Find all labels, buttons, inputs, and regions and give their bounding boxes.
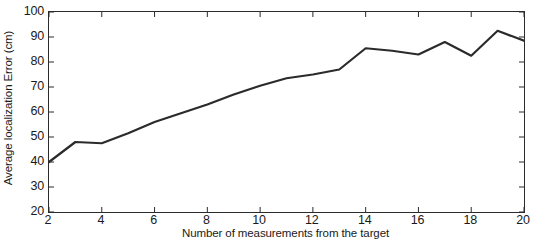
- x-axis-tick-label: 2: [45, 213, 52, 227]
- x-axis-tick-label: 8: [203, 213, 210, 227]
- x-axis-tick-label: 14: [358, 213, 372, 227]
- x-axis-tick-label: 20: [516, 213, 530, 227]
- x-axis-tick-label: 12: [305, 213, 319, 227]
- x-axis-tick-label: 6: [150, 213, 157, 227]
- x-axis-tick-label: 4: [97, 213, 104, 227]
- x-axis-tick-labels: 2468101214161820: [0, 0, 535, 246]
- chart-figure: Average localization Error (cm) 20304050…: [0, 0, 535, 246]
- x-axis-tick-label: 18: [463, 213, 477, 227]
- x-axis-tick-label: 16: [411, 213, 425, 227]
- x-axis-title: Number of measurements from the target: [48, 227, 523, 239]
- x-axis-tick-label: 10: [252, 213, 266, 227]
